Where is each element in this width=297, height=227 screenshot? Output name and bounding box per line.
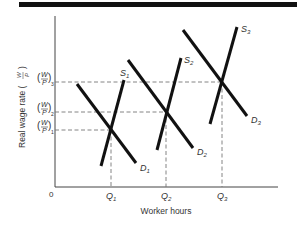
demand-label-2: D2 bbox=[197, 147, 208, 158]
svg-text:P: P bbox=[42, 109, 47, 116]
wage-label-2: ( W P ) 2 bbox=[37, 101, 54, 117]
labor-market-diagram: S1 S2 S3 D1 D2 D3 ( W P ) 3 ( W P ) bbox=[0, 0, 297, 227]
guide-lines bbox=[55, 82, 222, 187]
supply-label-2: S2 bbox=[184, 55, 194, 66]
supply-label-3: S3 bbox=[241, 24, 251, 35]
svg-text:1: 1 bbox=[51, 129, 54, 135]
q2-label: Q2 bbox=[161, 191, 172, 202]
svg-text:2: 2 bbox=[51, 111, 54, 117]
svg-text:): ) bbox=[17, 66, 27, 69]
demand-curves bbox=[77, 30, 247, 163]
x-tick-labels: Q1 Q2 Q3 bbox=[106, 191, 228, 202]
svg-text:Real wage rate (: Real wage rate ( bbox=[17, 85, 27, 148]
demand-label-3: D3 bbox=[251, 115, 262, 126]
svg-text:W: W bbox=[16, 71, 22, 78]
origin-label: 0 bbox=[49, 190, 54, 199]
y-axis-label: Real wage rate ( W P ) bbox=[16, 66, 30, 148]
svg-text:P: P bbox=[42, 127, 47, 134]
svg-text:3: 3 bbox=[51, 81, 54, 87]
title-bar bbox=[19, 2, 297, 7]
svg-text:P: P bbox=[24, 73, 30, 77]
supply-curve-3 bbox=[210, 27, 237, 124]
supply-label-1: S1 bbox=[120, 68, 129, 79]
q1-label: Q1 bbox=[106, 191, 116, 202]
svg-text:P: P bbox=[42, 79, 47, 86]
y-tick-labels: ( W P ) 3 ( W P ) 2 ( W P ) 1 bbox=[37, 71, 54, 135]
wage-label-3: ( W P ) 3 bbox=[37, 71, 54, 87]
q3-label: Q3 bbox=[217, 191, 228, 202]
wage-label-1: ( W P ) 1 bbox=[37, 119, 54, 135]
x-axis-label: Worker hours bbox=[141, 206, 192, 216]
demand-label-1: D1 bbox=[140, 163, 150, 174]
